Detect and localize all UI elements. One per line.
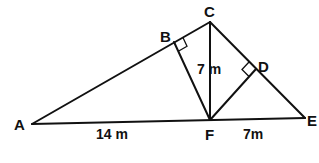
point-label-A: A xyxy=(14,116,25,133)
right-angle-marker-D xyxy=(242,62,249,77)
point-label-B: B xyxy=(160,28,171,45)
measurement-CF: 7 m xyxy=(197,61,221,77)
point-label-C: C xyxy=(204,3,215,20)
geometry-diagram: A B C D E F 14 m 7 m 7m xyxy=(0,0,319,163)
measurement-AF: 14 m xyxy=(96,126,128,142)
segment-BF xyxy=(174,42,210,120)
point-label-F: F xyxy=(205,126,214,143)
point-label-D: D xyxy=(258,58,269,75)
segment-AE xyxy=(32,118,305,124)
point-label-E: E xyxy=(307,112,317,129)
measurement-FE: 7m xyxy=(243,126,263,142)
